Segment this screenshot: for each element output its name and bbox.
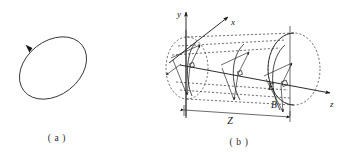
panel-b: y x z xyxy=(166,9,334,148)
x-axis-label: x xyxy=(230,17,235,27)
figure-root: ( a ) y xyxy=(0,0,349,154)
electric-field-label: E xyxy=(267,82,274,92)
cross-section-2 xyxy=(221,44,249,100)
x-axis-negative-stub xyxy=(166,64,181,75)
cylinder-left-end-circle xyxy=(166,37,208,99)
cross-section-2-right-angle-marker xyxy=(237,70,242,75)
z-length-label: Z xyxy=(227,115,233,126)
cross-section-2-chord-lower xyxy=(222,68,234,100)
z-axis-label: z xyxy=(329,99,334,109)
cross-section-3: E B xyxy=(264,45,292,112)
magnetic-field-label: B xyxy=(271,100,277,110)
panel-b-caption: ( b ) xyxy=(230,137,249,148)
y-axis-label: y xyxy=(176,9,181,19)
panel-a-caption: ( a ) xyxy=(48,133,66,144)
figure-canvas: ( a ) y xyxy=(0,0,349,154)
z-dimension-line xyxy=(184,110,290,117)
cylinder-generator-front xyxy=(172,48,280,55)
cross-section-1-right-angle-marker xyxy=(189,62,194,67)
polarization-ellipse xyxy=(7,24,99,112)
cross-section-1-chord-upper xyxy=(171,45,200,58)
panel-a: ( a ) xyxy=(7,24,99,144)
cylinder-outline xyxy=(166,33,320,105)
cross-section-2-chord-upper xyxy=(221,52,249,65)
